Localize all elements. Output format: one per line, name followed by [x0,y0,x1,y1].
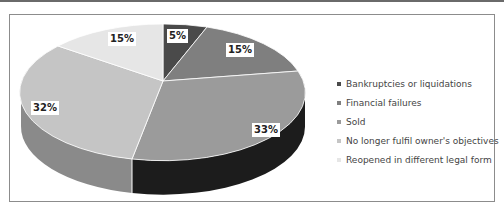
legend-item-sold[interactable]: Sold [337,112,499,131]
legend-item-financial-failures[interactable]: Financial failures [337,93,499,112]
legend-item-reopened[interactable]: Reopened in different legal form [337,150,499,169]
legend-label: Sold [346,117,365,127]
legend-label: Financial failures [346,98,421,108]
data-label-sold: 33% [252,123,280,137]
data-label-financial-failures: 15% [226,43,254,57]
legend-label: Reopened in different legal form [346,155,492,165]
legend-item-no-longer-fulfil[interactable]: No longer fulfil owner's objectives [337,131,499,150]
data-label-bankruptcies: 5% [167,29,188,43]
legend: Bankruptcies or liquidations Financial f… [337,74,499,169]
legend-label: No longer fulfil owner's objectives [346,136,499,146]
legend-swatch-icon [337,139,341,143]
legend-swatch-icon [337,101,341,105]
data-label-no-longer-fulfil: 32% [31,101,59,115]
legend-swatch-icon [337,158,341,162]
legend-label: Bankruptcies or liquidations [346,79,472,89]
legend-item-bankruptcies[interactable]: Bankruptcies or liquidations [337,74,499,93]
data-label-reopened: 15% [108,32,136,46]
legend-swatch-icon [337,82,341,86]
legend-swatch-icon [337,120,341,124]
